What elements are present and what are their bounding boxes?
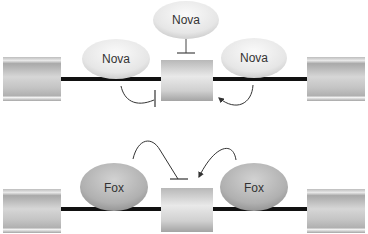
nova-protein-downstream: Nova	[221, 38, 287, 78]
fox-label: Fox	[104, 181, 124, 195]
downstream-exon	[307, 57, 365, 101]
inhibition-curve-upstream	[121, 86, 155, 107]
upstream-exon	[3, 189, 61, 233]
nova-panel: Nova Nova Nova	[3, 1, 365, 107]
splicing-regulation-diagram: Nova Nova Nova Fox	[0, 0, 368, 234]
fox-protein-downstream: Fox	[220, 163, 288, 211]
alternative-exon	[161, 188, 213, 232]
upstream-exon	[3, 57, 61, 101]
alternative-exon	[161, 60, 213, 101]
fox-protein-upstream: Fox	[80, 163, 148, 211]
downstream-exon	[307, 189, 365, 233]
nova-label: Nova	[102, 52, 130, 66]
nova-protein-top: Nova	[153, 1, 219, 39]
nova-protein-upstream: Nova	[82, 39, 150, 79]
activation-arrow-downstream	[219, 85, 253, 105]
fox-label: Fox	[244, 181, 264, 195]
inhibition-bar-top	[177, 39, 195, 53]
nova-label: Nova	[240, 51, 268, 65]
fox-panel: Fox Fox	[3, 141, 365, 233]
nova-label: Nova	[172, 13, 200, 27]
